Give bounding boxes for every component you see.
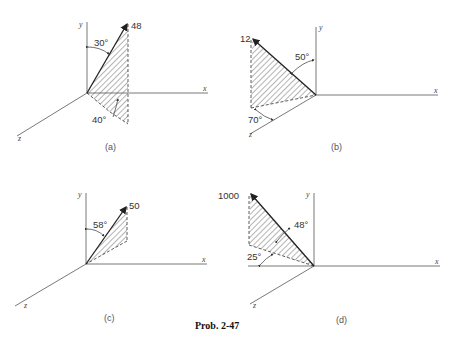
z-axis-label: z [252,301,257,310]
z-axis [250,266,314,304]
y-axis-label: y [305,190,310,199]
magnitude-label: 48 [131,20,142,31]
z-axis-label: z [23,301,28,310]
angle-label: 50° [295,51,310,62]
problem-label: Prob. 2-47 [195,320,239,331]
x-axis-label: x [201,255,206,264]
y-axis-label: y [78,20,83,29]
z-axis [17,93,87,136]
z-axis [15,264,86,306]
x-axis-label: x [202,84,207,93]
magnitude-label: 50 [129,200,140,211]
figure-caption: (c) [104,313,115,323]
z-axis-label: z [248,130,253,139]
x-axis-label: x [434,257,439,266]
figure-a: 48 30° 40° y x z (a) [17,20,208,152]
x-axis-label: x [433,86,438,95]
y-axis-label: y [318,23,323,32]
figure-c: 50 58° y x z (c) [15,190,207,323]
figure-caption: (a) [105,142,116,152]
figure-caption: (d) [336,315,347,325]
angle-label: 58° [93,219,108,230]
angle-label: 40° [92,114,107,125]
y-axis-label: y [77,190,82,199]
z-axis-label: z [17,134,22,143]
figure-caption: (b) [331,142,342,152]
angle-label: 25° [247,251,262,262]
angle-label: 30° [94,37,109,48]
figure-b: 12 50° 70° y x z (b) [240,23,438,152]
magnitude-label: 12 [240,33,251,44]
figure-d: 1000 48° 25° y x z (d) [218,190,440,325]
magnitude-label: 1000 [218,190,239,201]
vector-diagrams: 48 30° 40° y x z (a) 12 50° 70° y x z (b… [0,0,450,339]
angle-label: 48° [294,219,309,230]
angle-label: 70° [248,114,263,125]
